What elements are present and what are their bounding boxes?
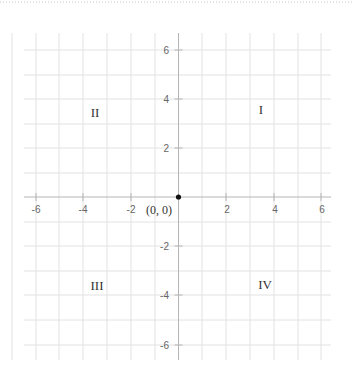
origin-label: (0, 0) xyxy=(146,203,172,217)
quadrant-label-ii: II xyxy=(91,105,100,120)
y-tick-label-neg4: -4 xyxy=(160,290,169,301)
origin-point xyxy=(176,194,181,199)
x-tick-label-4: 4 xyxy=(272,204,278,215)
quadrant-label-iv: IV xyxy=(258,277,272,292)
x-tick-label-neg4: -4 xyxy=(79,204,88,215)
x-tick-label-neg2: -2 xyxy=(127,204,136,215)
coordinate-plane: -6 -4 -2 2 4 6 6 4 2 -2 -4 -6 I II III I… xyxy=(0,0,353,372)
x-tick-label-neg6: -6 xyxy=(32,204,41,215)
y-tick-label-6: 6 xyxy=(163,45,169,56)
x-tick-label-6: 6 xyxy=(319,204,325,215)
y-tick-label-neg6: -6 xyxy=(160,340,169,351)
y-tick-label-2: 2 xyxy=(163,143,169,154)
quadrant-label-iii: III xyxy=(91,278,104,293)
y-tick-label-neg2: -2 xyxy=(160,241,169,252)
y-tick-label-4: 4 xyxy=(163,94,169,105)
x-tick-label-2: 2 xyxy=(224,204,230,215)
quadrant-label-i: I xyxy=(259,102,263,117)
